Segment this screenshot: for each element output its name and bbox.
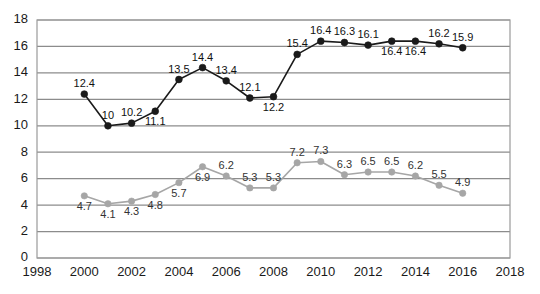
dark-series-label-2013: 16.4	[381, 45, 402, 57]
dark-series-label-2010: 16.4	[310, 24, 331, 36]
x-axis-tick-labels: 1998200020022004200620082010201220142016…	[23, 264, 525, 279]
gray-series-label-2002: 4.3	[124, 205, 139, 217]
gray-series-point-2003	[152, 191, 158, 197]
dark-series-label-2009: 15.4	[286, 37, 307, 49]
dark-series-point-2014	[412, 38, 419, 45]
dark-series-label-2004: 13.5	[168, 63, 189, 75]
dark-series-label-2008: 12.2	[263, 101, 284, 113]
x-tick-label-2012: 2012	[354, 264, 383, 279]
dark-series-point-2001	[105, 122, 112, 129]
dark-series-label-2016: 15.9	[452, 31, 473, 43]
gray-series-point-2012	[365, 169, 371, 175]
y-tick-label-2: 2	[21, 223, 28, 238]
gray-series-label-2005: 6.9	[195, 171, 210, 183]
gray-series-point-2014	[412, 173, 418, 179]
gray-series-point-2011	[341, 172, 347, 178]
dark-series-point-2003	[152, 108, 159, 115]
x-tick-label-2014: 2014	[401, 264, 430, 279]
gray-series-label-2003: 4.8	[148, 199, 163, 211]
chart-canvas: 024681012141618 199820002002200420062008…	[0, 0, 540, 294]
gray-series-point-2000	[81, 193, 87, 199]
dark-series-point-2004	[176, 76, 183, 83]
dark-series-label-2006: 13.4	[215, 64, 236, 76]
gray-series-point-2004	[176, 179, 182, 185]
gray-series-label-2015: 5.5	[431, 168, 446, 180]
gray-series-point-2010	[318, 158, 324, 164]
gray-series-label-2009: 7.2	[290, 146, 305, 158]
dark-series-point-2008	[270, 93, 277, 100]
x-tick-label-2000: 2000	[70, 264, 99, 279]
x-tick-label-2018: 2018	[496, 264, 525, 279]
x-tick-label-2006: 2006	[212, 264, 241, 279]
gray-series-point-2006	[223, 173, 229, 179]
gray-series-point-2005	[199, 164, 205, 170]
chart-background	[0, 0, 540, 294]
gray-series-label-2010: 7.3	[313, 144, 328, 156]
x-tick-label-1998: 1998	[23, 264, 52, 279]
dark-series-label-2014: 16.4	[405, 45, 426, 57]
gray-series-label-2001: 4.1	[100, 208, 115, 220]
gray-series-label-2008: 5.3	[266, 171, 281, 183]
gray-series-label-2013: 6.5	[384, 155, 399, 167]
gray-series-label-2000: 4.7	[77, 200, 92, 212]
x-tick-label-2002: 2002	[117, 264, 146, 279]
dark-series-point-2007	[246, 95, 253, 102]
y-tick-label-4: 4	[21, 197, 28, 212]
gray-series-label-2004: 5.7	[171, 187, 186, 199]
gray-series-point-2013	[389, 169, 395, 175]
gray-series-label-2006: 6.2	[219, 159, 234, 171]
y-tick-label-8: 8	[21, 144, 28, 159]
gray-series-point-2001	[105, 201, 111, 207]
gray-series-label-2014: 6.2	[408, 159, 423, 171]
dark-series-point-2009	[294, 51, 301, 58]
dark-series-label-2001: 10	[102, 109, 114, 121]
x-tick-label-2016: 2016	[448, 264, 477, 279]
y-tick-label-14: 14	[14, 64, 28, 79]
gray-series-label-2011: 6.3	[337, 158, 352, 170]
gray-series-label-2012: 6.5	[360, 155, 375, 167]
dark-series-point-2002	[128, 120, 135, 127]
dark-series-point-2000	[81, 91, 88, 98]
dark-series-label-2000: 12.4	[74, 77, 95, 89]
gray-series-point-2015	[436, 182, 442, 188]
gray-series-point-2007	[247, 185, 253, 191]
dark-series-point-2006	[223, 77, 230, 84]
dark-series-label-2011: 16.3	[334, 25, 355, 37]
dark-series-label-2012: 16.1	[357, 28, 378, 40]
dark-series-label-2003: 11.1	[145, 115, 166, 127]
dark-series-label-2007: 12.1	[239, 81, 260, 93]
dark-series-label-2002: 10.2	[121, 106, 142, 118]
gray-series-point-2016	[460, 190, 466, 196]
y-tick-label-10: 10	[14, 117, 28, 132]
dark-series-point-2016	[459, 44, 466, 51]
dark-series-point-2015	[436, 40, 443, 47]
dark-series-label-2015: 16.2	[428, 27, 449, 39]
y-tick-label-0: 0	[21, 249, 28, 264]
dark-series-label-2005: 14.4	[192, 51, 213, 63]
y-tick-label-16: 16	[14, 38, 28, 53]
dark-series-point-2005	[199, 64, 206, 71]
y-tick-label-12: 12	[14, 91, 28, 106]
line-chart: 024681012141618 199820002002200420062008…	[0, 0, 540, 294]
gray-series-point-2008	[270, 185, 276, 191]
gray-series-point-2002	[128, 198, 134, 204]
x-tick-label-2008: 2008	[259, 264, 288, 279]
x-tick-label-2010: 2010	[306, 264, 335, 279]
dark-series-point-2010	[317, 38, 324, 45]
y-tick-label-6: 6	[21, 170, 28, 185]
dark-series-point-2013	[388, 38, 395, 45]
y-tick-label-18: 18	[14, 11, 28, 26]
gray-series-label-2016: 4.9	[455, 176, 470, 188]
dark-series-point-2011	[341, 39, 348, 46]
x-tick-label-2004: 2004	[164, 264, 193, 279]
gray-series-label-2007: 5.3	[242, 171, 257, 183]
gray-series-point-2009	[294, 160, 300, 166]
dark-series-point-2012	[365, 42, 372, 49]
